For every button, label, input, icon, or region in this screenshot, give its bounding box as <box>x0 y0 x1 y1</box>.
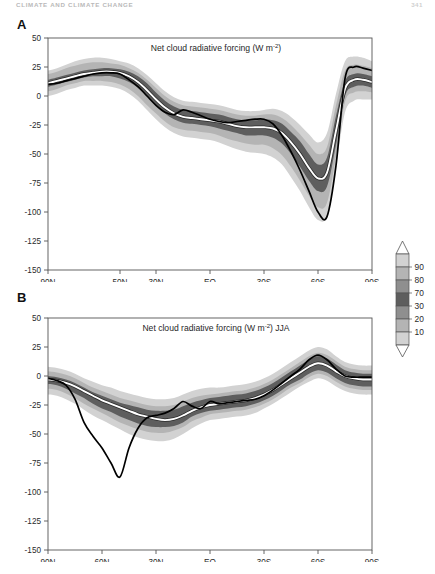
svg-text:30S: 30S <box>257 558 272 562</box>
running-head: CLIMATE AND CLIMATE CHANGE <box>16 1 133 8</box>
svg-text:80: 80 <box>415 275 425 285</box>
svg-text:60S: 60S <box>311 278 326 282</box>
svg-text:20: 20 <box>415 314 425 324</box>
svg-text:-100: -100 <box>25 208 42 217</box>
svg-text:10: 10 <box>415 327 425 337</box>
svg-text:90N: 90N <box>40 278 55 282</box>
svg-text:70: 70 <box>415 288 425 298</box>
svg-text:-50: -50 <box>29 430 41 439</box>
svg-text:-50: -50 <box>29 150 41 159</box>
page-folio: 341 <box>411 1 423 8</box>
panel-a-chart: 50250-25-50-75-100-125-15090N50N30NEQ30S… <box>0 30 380 282</box>
svg-text:30S: 30S <box>257 278 272 282</box>
svg-text:90S: 90S <box>365 278 380 282</box>
svg-text:30: 30 <box>415 301 425 311</box>
svg-text:Net cloud radiative forcing (W: Net cloud radiative forcing (W m-2) JJA <box>142 323 289 333</box>
panel-b-svg: 50250-25-50-75-100-125-15090N60N30NEQ30S… <box>0 310 380 562</box>
svg-text:50: 50 <box>32 314 42 323</box>
svg-text:EQ: EQ <box>204 278 216 282</box>
svg-text:-150: -150 <box>25 546 42 555</box>
panel-a-svg: 50250-25-50-75-100-125-15090N50N30NEQ30S… <box>0 30 380 282</box>
svg-text:25: 25 <box>32 63 42 72</box>
svg-text:30N: 30N <box>148 558 163 562</box>
svg-text:0: 0 <box>36 372 41 381</box>
svg-text:25: 25 <box>32 343 42 352</box>
svg-text:-150: -150 <box>25 266 42 275</box>
svg-text:60N: 60N <box>94 558 109 562</box>
svg-text:-125: -125 <box>25 517 42 526</box>
svg-text:Net cloud radiative forcing (W: Net cloud radiative forcing (W m-2) <box>151 43 282 53</box>
percentile-colorbar: 908070302010 <box>385 236 435 372</box>
svg-text:50: 50 <box>32 34 42 43</box>
svg-text:EQ: EQ <box>204 558 216 562</box>
panel-b-chart: 50250-25-50-75-100-125-15090N60N30NEQ30S… <box>0 310 380 562</box>
svg-text:-25: -25 <box>29 121 41 130</box>
svg-text:-75: -75 <box>29 179 41 188</box>
svg-text:90: 90 <box>415 262 425 272</box>
colorbar-svg: 908070302010 <box>385 236 435 372</box>
svg-text:-25: -25 <box>29 401 41 410</box>
svg-text:-75: -75 <box>29 459 41 468</box>
svg-text:90N: 90N <box>40 558 55 562</box>
svg-text:90S: 90S <box>365 558 380 562</box>
svg-text:60S: 60S <box>311 558 326 562</box>
svg-text:-100: -100 <box>25 488 42 497</box>
panel-b-letter: B <box>17 290 26 305</box>
svg-text:30N: 30N <box>148 278 163 282</box>
svg-text:50N: 50N <box>112 278 127 282</box>
svg-text:0: 0 <box>36 92 41 101</box>
svg-text:-125: -125 <box>25 237 42 246</box>
